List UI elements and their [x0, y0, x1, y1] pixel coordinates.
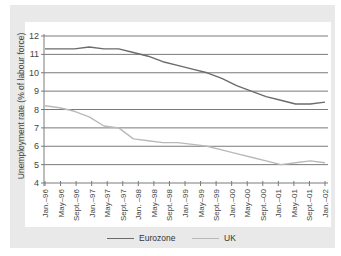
x-tick-label: Jan.–01	[274, 188, 283, 217]
x-tick-label: Jan.–00	[228, 188, 237, 217]
series-line-uk	[45, 106, 325, 165]
x-tick-label: May–00	[243, 188, 252, 217]
data-series	[45, 47, 325, 165]
series-line-eurozone	[45, 47, 325, 104]
x-tick-label: Sept.–01	[305, 188, 314, 221]
legend-item-uk: UK	[192, 231, 236, 245]
x-tick-label: May–97	[103, 188, 112, 217]
y-axis-ticks: 456789101112	[29, 31, 44, 188]
x-tick-label: Jan. –98	[134, 188, 143, 219]
y-tick-label: 7	[34, 123, 39, 133]
x-tick-label: Jan.–97	[88, 188, 97, 217]
x-tick-label: Jan.–02	[321, 188, 330, 217]
y-tick-label: 6	[34, 141, 39, 151]
y-axis-label: Unemployment rate (% of labour force)	[16, 16, 28, 196]
y-tick-label: 10	[29, 68, 39, 78]
x-tick-label: Sept.–99	[212, 188, 221, 221]
y-tick-label: 11	[30, 49, 39, 59]
y-tick-label: 4	[34, 178, 39, 188]
y-tick-label: 8	[34, 105, 39, 115]
y-tick-label: 5	[34, 160, 39, 170]
legend-swatch-eurozone	[107, 238, 134, 239]
legend-label-eurozone: Eurozone	[139, 233, 175, 243]
x-tick-label: Jan.–99	[181, 188, 190, 217]
x-tick-label: May–99	[197, 188, 206, 217]
x-axis-ticks: Jan.–96May–96Sept.–96Jan.–97May–97Sept.–…	[41, 181, 330, 221]
x-tick-label: Sept.–00	[259, 188, 268, 221]
x-tick-label: May–01	[290, 188, 299, 217]
legend: Eurozone UK	[0, 231, 341, 245]
legend-swatch-uk	[192, 238, 219, 239]
x-tick-label: May–98	[150, 188, 159, 217]
x-tick-label: Sept.–98	[165, 188, 174, 221]
x-tick-label: Sept.–97	[119, 188, 128, 221]
x-tick-label: May–96	[57, 188, 66, 217]
gridlines	[44, 34, 328, 186]
legend-item-eurozone: Eurozone	[107, 231, 175, 245]
x-tick-label: Sept.–96	[72, 188, 81, 221]
y-tick-label: 12	[29, 31, 39, 41]
legend-label-uk: UK	[224, 233, 236, 243]
line-chart: 456789101112 Jan.–96May–96Sept.–96Jan.–9…	[0, 0, 341, 256]
y-tick-label: 9	[34, 86, 39, 96]
x-tick-label: Jan.–96	[41, 188, 50, 217]
